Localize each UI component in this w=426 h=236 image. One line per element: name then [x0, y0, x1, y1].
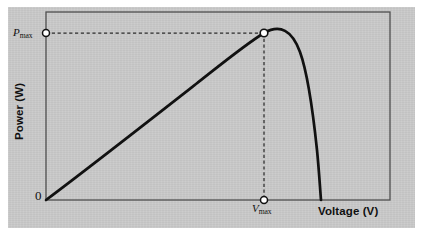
power-curve	[46, 29, 321, 200]
vmax-subscript: max	[259, 207, 272, 216]
vmax-label: Vmax	[252, 203, 272, 215]
peak-point-marker-icon	[260, 29, 268, 37]
pmax-label: Pmax	[13, 27, 33, 39]
origin-label: 0	[35, 189, 42, 202]
plot-canvas	[0, 0, 426, 236]
x-axis-title: Voltage (V)	[318, 206, 378, 218]
pmax-subscript: max	[20, 31, 33, 40]
plot-frame	[46, 12, 390, 200]
pmax-marker-icon	[43, 30, 50, 37]
figure-root: Power (W) Voltage (V) Pmax Vmax 0	[0, 0, 426, 236]
y-axis-title: Power (W)	[14, 83, 26, 140]
vmax-symbol: V	[252, 202, 259, 214]
pmax-symbol: P	[13, 26, 20, 38]
